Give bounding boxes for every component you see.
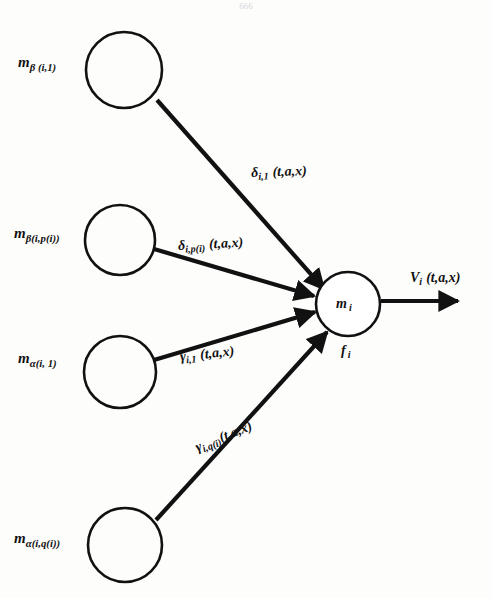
center-node-below-label: fi (341, 344, 350, 358)
edge-output-v-i-label-subscript: i (419, 276, 422, 287)
input-node-beta-i-1-label: mβ (i,1) (18, 55, 56, 70)
edge-delta-i-1-line (157, 100, 324, 289)
input-node-beta-i-p-i-label: mβ(i,p(i)) (14, 226, 60, 241)
input-node-beta-i-p-i-circle (85, 205, 155, 275)
center-node-below-label-symbol: f (341, 343, 346, 358)
center-node-inside-label: mi (336, 297, 352, 311)
edge-delta-i-p-i-label-subscript: i,p(i) (185, 243, 205, 255)
edge-output-v-i-label-args: (t,a,x) (426, 270, 460, 285)
edge-gamma-i-1-line (154, 312, 315, 360)
diagram-canvas (0, 0, 492, 598)
edge-delta-i-p-i-line (154, 249, 314, 296)
edge-delta-i-p-i-label-args: (t,a,x) (209, 235, 244, 252)
input-node-beta-i-p-i-label-subscript: β(i,p(i)) (26, 232, 60, 244)
input-node-alpha-i-1-label-symbol: m (18, 350, 30, 366)
input-node-alpha-i-q-i-label-symbol: m (14, 530, 26, 546)
edge-delta-i-1-label-args: (t,a,x) (272, 163, 307, 179)
edge-delta-i-1-label: δi,1(t,a,x) (251, 164, 307, 180)
center-node-inside-label-symbol: m (336, 296, 347, 311)
edge-delta-i-1-label-subscript: i,1 (258, 171, 269, 182)
edge-output-v-i-label-symbol: V (410, 270, 419, 285)
input-node-alpha-i-1-circle (84, 336, 156, 408)
input-node-alpha-i-1-label-subscript: α(i, 1) (30, 357, 57, 369)
input-node-alpha-i-q-i-label: mα(i,q(i)) (14, 531, 60, 546)
input-node-alpha-i-q-i-circle (88, 508, 162, 582)
input-node-beta-i-1-circle (86, 32, 162, 108)
input-node-beta-i-p-i-label-symbol: m (14, 225, 26, 241)
input-node-beta-i-1-label-subscript: β (i,1) (30, 61, 57, 73)
input-node-alpha-i-1-label: mα(i, 1) (18, 351, 57, 366)
input-node-alpha-i-q-i-label-subscript: α(i,q(i)) (26, 537, 60, 549)
input-node-beta-i-1-label-symbol: m (18, 54, 30, 70)
edge-output-v-i-label: Vi(t,a,x) (410, 271, 460, 285)
diagram-page: 666 mβ (i,1) mβ(i,p(i)) mα(i, 1) mα(i,q(… (0, 0, 492, 598)
edge-gamma-i-1-label-subscript: i,1 (186, 354, 197, 366)
center-node-inside-label-subscript: i (349, 302, 352, 313)
